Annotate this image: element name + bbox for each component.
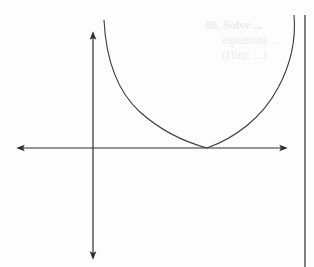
page-scan: 86. Solve ... equations ... (Hint: ...) [0,0,314,267]
curve-left-branch [104,20,207,148]
curve-right-branch [207,15,294,148]
curve-graph-figure [0,0,314,267]
